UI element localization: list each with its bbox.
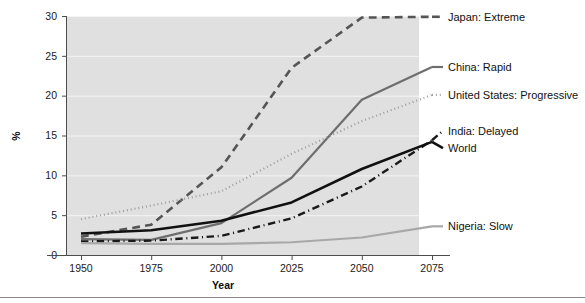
x-tick-label: 2075 (420, 262, 444, 274)
x-tick-label: 2025 (280, 262, 304, 274)
series-label-japan-extreme: Japan: Extreme (448, 11, 525, 23)
y-tick-label: 25 (45, 50, 57, 62)
series-label-china-rapid: China: Rapid (448, 61, 512, 73)
x-tick-label: 2000 (210, 262, 234, 274)
y-tick-label: 10 (45, 169, 57, 181)
x-tick-label: 1950 (69, 262, 93, 274)
y-tick-label: 0 (51, 249, 57, 261)
chart-figure: 051015202530 195019752000202520502075 Ja… (0, 0, 585, 303)
y-tick-label: 30 (45, 10, 57, 22)
x-axis-title: Year (212, 279, 234, 291)
x-tick-label: 1975 (140, 262, 164, 274)
series-label-nigeria-slow: Nigeria: Slow (448, 220, 513, 232)
series-label-united-states-progressive: United States: Progressive (448, 89, 578, 101)
y-tick-label: 15 (45, 129, 57, 141)
y-tick-label: 5 (51, 209, 57, 221)
y-axis-title: % (10, 131, 22, 141)
series-label-world: World (448, 142, 477, 154)
y-tick-label: 20 (45, 89, 57, 101)
series-label-india-delayed: India: Delayed (448, 125, 518, 137)
x-tick-label: 2050 (350, 262, 374, 274)
